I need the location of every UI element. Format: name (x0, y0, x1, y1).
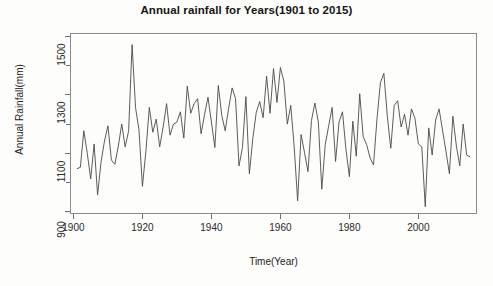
y-minor-tick-mark (66, 124, 70, 125)
x-tick-label: 1960 (255, 222, 305, 233)
chart-title: Annual rainfall for Years(1901 to 2015) (0, 4, 493, 16)
x-tick-mark (349, 214, 350, 219)
y-tick-label: 1500 (56, 34, 67, 74)
x-axis-label: Time(Year) (70, 256, 477, 267)
y-minor-tick-mark (66, 65, 70, 66)
y-minor-tick-mark (66, 182, 70, 183)
x-tick-label: 2000 (393, 222, 443, 233)
rainfall-line-series (70, 33, 477, 214)
rainfall-chart: Annual rainfall for Years(1901 to 2015) … (0, 0, 493, 286)
x-tick-mark (73, 214, 74, 219)
x-tick-label: 1980 (324, 222, 374, 233)
x-tick-label: 1940 (186, 222, 236, 233)
y-tick-label: 1100 (56, 151, 67, 191)
x-tick-mark (280, 214, 281, 219)
y-axis-label: Annual Rainfall(mm) (14, 50, 25, 170)
x-tick-label: 1900 (48, 222, 98, 233)
x-tick-mark (142, 214, 143, 219)
x-tick-mark (211, 214, 212, 219)
y-tick-label: 1300 (56, 93, 67, 133)
x-tick-label: 1920 (117, 222, 167, 233)
x-tick-mark (418, 214, 419, 219)
